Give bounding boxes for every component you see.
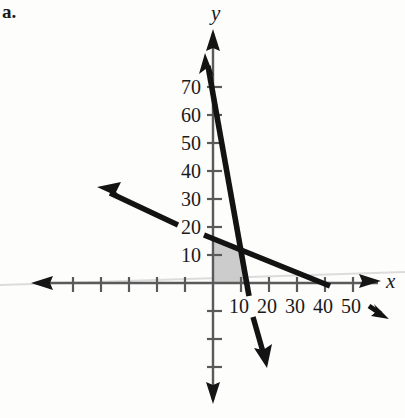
corner-shading-arrow <box>369 304 389 319</box>
y-tick-label-30: 30 <box>163 189 201 209</box>
x-tick-label-40: 40 <box>313 296 333 316</box>
figure-container: a. y x 70 60 50 40 30 20 10 10 20 30 40 … <box>0 0 405 418</box>
y-tick-label-10: 10 <box>163 245 201 265</box>
lower-arrow-shaft <box>253 317 263 352</box>
axes-group <box>31 29 381 404</box>
upper-left-arrowhead <box>97 182 123 199</box>
x-tick-label-20: 20 <box>257 296 277 316</box>
x-tick-label-10: 10 <box>229 296 249 316</box>
x-axis-label: x <box>386 271 395 292</box>
y-axis-label: y <box>211 3 220 24</box>
coordinate-plane-graph <box>0 0 405 418</box>
x-tick-label-50: 50 <box>341 296 361 316</box>
x-tick-label-30: 30 <box>285 296 305 316</box>
lower-shading-arrow <box>253 317 272 368</box>
y-tick-label-20: 20 <box>163 217 201 237</box>
y-axis-bottom-arrowhead <box>206 382 220 404</box>
y-tick-label-40: 40 <box>163 161 201 181</box>
y-tick-label-70: 70 <box>163 77 201 97</box>
part-label: a. <box>2 2 16 21</box>
x-axis-right-arrowhead <box>359 274 381 288</box>
y-tick-label-50: 50 <box>163 133 201 153</box>
y-axis-top-arrowhead <box>206 29 220 51</box>
x-axis-left-arrowhead <box>31 276 53 290</box>
y-tick-label-60: 60 <box>163 105 201 125</box>
